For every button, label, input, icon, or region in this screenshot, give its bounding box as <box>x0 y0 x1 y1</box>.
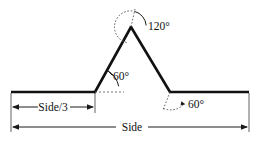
side3-left-arrowhead <box>12 104 19 110</box>
apex-angle-arc-tail <box>135 11 147 25</box>
diagram-canvas: 120° 60° 60° <box>0 0 262 141</box>
right-base-angle-group: 60° <box>163 92 205 110</box>
side-label: Side <box>122 121 142 133</box>
side-over-three-label: Side/3 <box>38 101 68 113</box>
apex-angle-label: 120° <box>148 20 170 32</box>
peak-left-edge <box>95 27 131 92</box>
side-left-arrowhead <box>12 124 19 130</box>
right-angle-reference-ray <box>163 92 170 110</box>
left-base-angle-label: 60° <box>113 70 130 82</box>
profile-outline <box>11 27 249 92</box>
geometry-diagram: 120° 60° 60° <box>0 0 262 141</box>
apex-angle-group: 120° <box>114 9 170 43</box>
side-dimension-group: Side <box>12 121 248 133</box>
right-base-angle-label: 60° <box>188 98 205 110</box>
side-over-three-dimension-group: Side/3 <box>12 101 94 113</box>
peak-right-edge <box>131 27 170 92</box>
side-right-arrowhead <box>241 124 248 130</box>
side3-right-arrowhead <box>87 104 94 110</box>
